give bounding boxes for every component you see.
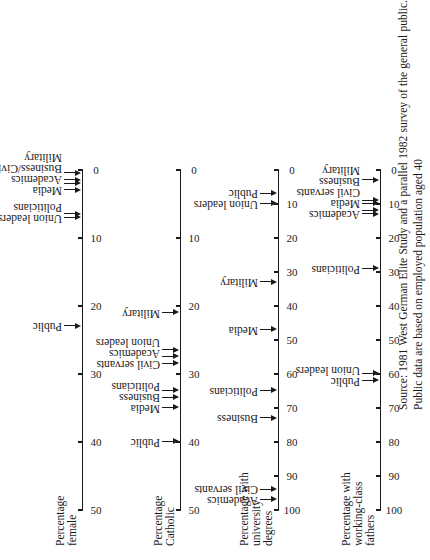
marker-label: Public [229,188,258,200]
axis-tick [376,407,381,408]
axis-tick [78,509,83,510]
axis-tick [376,237,381,238]
arrow-down-icon [173,439,179,445]
axis-tick [376,169,381,170]
marker-label: Civil servants [296,187,360,199]
axis-line [82,170,83,510]
axis-tick [274,271,279,272]
arrow-down-icon [271,201,277,207]
arrow-down-icon [173,388,179,394]
marker-label: Union leaders [296,365,360,377]
arrow-down-icon [271,388,277,394]
marker-label: Military [322,165,360,177]
tick-label: 10 [287,198,298,210]
marker-label: Civil servants [96,359,160,371]
figure: Percentagefemale50403020100PublicUnion l… [0,0,430,560]
marker-label: Politicians [209,386,258,398]
arrow-down-icon [75,187,81,193]
tick-label: 0 [93,164,99,176]
marker-label: Academics [109,348,160,360]
axis-tick [78,441,83,442]
axis-tick [376,509,381,510]
arrow-down-icon [173,405,179,411]
tick-label: 10 [189,232,200,244]
arrow-down-icon [173,354,179,360]
axis-tick [274,339,279,340]
arrow-down-icon [271,486,277,492]
arrow-down-icon [75,177,81,183]
marker-label: Business/Civil servants [0,163,62,175]
axis-tick [376,339,381,340]
arrow-down-icon [173,394,179,400]
tick-label: 100 [284,504,301,516]
tick-label: 30 [287,266,298,278]
marker-label: Public [331,376,360,388]
arrow-down-icon [271,415,277,421]
marker-label: Military [220,277,258,289]
arrow-down-icon [373,377,379,383]
arrow-down-icon [173,309,179,315]
tick-label: 20 [91,300,102,312]
axis-tick [176,169,181,170]
marker-label: Public [131,437,160,449]
axis-tick [376,441,381,442]
marker-label: Academics [309,209,360,221]
axis-line [180,170,181,510]
tick-label: 50 [287,334,298,346]
tick-label: 40 [189,436,200,448]
tick-label: 30 [189,368,200,380]
axis-tick [274,509,279,510]
marker-label: Military [122,308,160,320]
marker-label: Union leaders [0,213,62,225]
axis-tick [274,305,279,306]
arrow-down-icon [75,323,81,329]
marker-label: Academics [11,174,62,186]
tick-label: 20 [189,300,200,312]
tick-label: 40 [91,436,102,448]
axis-tick [274,441,279,442]
panel-title: Percentagefemale [54,496,78,546]
panel-title: Percentage withworking-classfathers [340,472,376,546]
tick-label: 80 [287,436,298,448]
marker-label: Business [217,413,258,425]
marker-label: Union leaders [194,199,258,211]
tick-label: 10 [91,232,102,244]
axis-tick [274,237,279,238]
marker-label: Military [24,152,62,164]
tick-label: 20 [287,232,298,244]
axis-tick [176,509,181,510]
axis-tick [274,169,279,170]
arrow-down-icon [373,197,379,203]
arrow-down-icon [373,177,379,183]
axis-tick [376,475,381,476]
tick-label: 90 [287,470,298,482]
axis-tick [176,305,181,306]
marker-label: Politicians [13,202,62,214]
arrow-down-icon [173,347,179,353]
axis-tick [274,373,279,374]
axis-tick [78,305,83,306]
arrow-down-icon [271,190,277,196]
arrow-down-icon [271,279,277,285]
axis-tick [78,237,83,238]
marker-label: Academics [207,495,258,507]
arrow-down-icon [75,211,81,217]
axis-tick [176,373,181,374]
marker-label: Media [331,198,360,210]
tick-label: 90 [389,470,400,482]
marker-label: Civil servants [194,484,258,496]
tick-label: 80 [389,436,400,448]
arrow-down-icon [271,326,277,332]
marker-label: Media [33,185,62,197]
arrow-down-icon [271,496,277,502]
marker-label: Public [33,321,62,333]
marker-label: Business [119,392,160,404]
axis-tick [274,407,279,408]
arrow-down-icon [75,170,81,176]
tick-label: 100 [386,504,403,516]
marker-label: Union leaders [96,337,160,349]
axis-tick [176,237,181,238]
arrow-down-icon [373,265,379,271]
marker-label: Media [229,325,258,337]
tick-label: 50 [91,504,102,516]
